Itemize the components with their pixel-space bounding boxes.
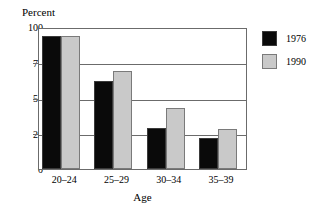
bar-1976-20-24 xyxy=(42,36,61,169)
bar-1990-25-29 xyxy=(113,71,132,169)
x-axis-title: Age xyxy=(38,191,247,204)
legend-label: 1976 xyxy=(286,34,306,44)
legend-swatch-1976 xyxy=(262,31,277,46)
y-axis-title: Percent xyxy=(22,6,55,19)
legend-item: 1976 xyxy=(262,28,306,49)
x-tick-label: 20–24 xyxy=(34,174,94,186)
bar-1976-35-39 xyxy=(199,138,218,169)
legend-label: 1990 xyxy=(286,57,306,67)
bar-1976-30-34 xyxy=(147,128,166,169)
plot-area xyxy=(38,28,247,170)
x-tick-label: 35–39 xyxy=(191,174,251,186)
legend-item: 1990 xyxy=(262,51,306,72)
x-tick-label: 25–29 xyxy=(86,174,146,186)
bar-1990-35-39 xyxy=(218,129,237,169)
x-tick-label: 30–34 xyxy=(139,174,199,186)
bar-1990-30-34 xyxy=(166,108,185,169)
bar-1990-20-24 xyxy=(61,36,80,169)
legend: 19761990 xyxy=(262,28,306,74)
bar-1976-25-29 xyxy=(94,81,113,169)
legend-swatch-1990 xyxy=(262,54,277,69)
